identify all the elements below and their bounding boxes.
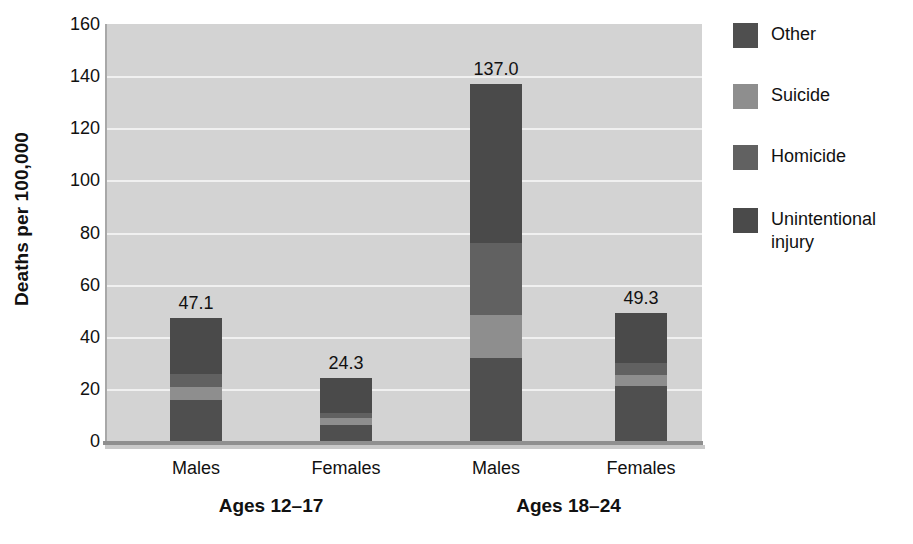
bar-segment: [470, 358, 522, 441]
x-tick-label: Females: [571, 458, 711, 479]
bar-segment: [320, 425, 372, 441]
chart-figure: Deaths per 100,000 160140120100806040200…: [0, 0, 913, 544]
x-axis-group-label: Ages 18–24: [439, 495, 699, 517]
bar-segment: [470, 243, 522, 315]
bar-segment: [615, 386, 667, 442]
legend-item[interactable]: Homicide: [733, 145, 846, 170]
bar-segment: [615, 375, 667, 385]
legend-label: Unintentional injury: [771, 208, 876, 254]
bar-value-label: 24.3: [286, 354, 406, 372]
legend-label: Other: [771, 23, 816, 46]
y-tick-label: 80: [52, 224, 100, 242]
bar-segment: [170, 318, 222, 374]
legend-swatch-icon: [733, 208, 758, 233]
y-axis-title: Deaths per 100,000: [11, 49, 33, 389]
bar-stack: 49.3: [615, 313, 667, 441]
legend-swatch-icon: [733, 23, 758, 48]
y-tick-label: 20: [52, 380, 100, 398]
x-axis-group-label: Ages 12–17: [141, 495, 401, 517]
bar-segment: [615, 363, 667, 375]
y-tick-label: 0: [52, 432, 100, 450]
bar-segment: [170, 400, 222, 441]
legend-swatch-icon: [733, 84, 758, 109]
legend-item[interactable]: Other: [733, 23, 816, 48]
x-tick-label: Males: [426, 458, 566, 479]
bar-segment: [170, 387, 222, 400]
gridline: [107, 76, 702, 78]
bar-segment: [615, 313, 667, 364]
y-tick-label: 60: [52, 276, 100, 294]
bar-value-label: 137.0: [436, 60, 556, 78]
legend-swatch-icon: [733, 145, 758, 170]
legend-label: Homicide: [771, 145, 846, 168]
bar-segment: [470, 315, 522, 358]
legend-item[interactable]: Unintentional injury: [733, 208, 876, 254]
y-tick-label: 100: [52, 171, 100, 189]
gridline: [107, 233, 702, 235]
gridline: [107, 128, 702, 130]
bar-stack: 47.1: [170, 318, 222, 441]
bar-value-label: 47.1: [136, 294, 256, 312]
gridline: [107, 180, 702, 182]
y-tick-label: 140: [52, 67, 100, 85]
legend-item[interactable]: Suicide: [733, 84, 830, 109]
y-tick-label: 120: [52, 119, 100, 137]
y-axis-tick-labels: 160140120100806040200: [52, 0, 100, 470]
gridline: [107, 285, 702, 287]
x-tick-label: Females: [276, 458, 416, 479]
x-tick-label: Males: [126, 458, 266, 479]
bar-stack: 24.3: [320, 378, 372, 441]
y-tick-label: 160: [52, 15, 100, 33]
bar-segment: [320, 378, 372, 413]
bar-value-label: 49.3: [581, 289, 701, 307]
bar-segment: [470, 84, 522, 243]
bar-stack: 137.0: [470, 84, 522, 441]
y-tick-label: 40: [52, 328, 100, 346]
legend-label: Suicide: [771, 84, 830, 107]
x-axis-shadow: [105, 445, 705, 449]
bar-segment: [170, 374, 222, 387]
